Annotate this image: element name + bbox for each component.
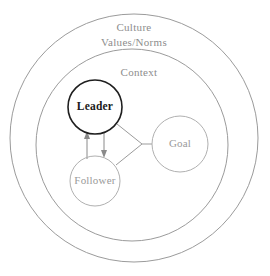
ring-culture-label-line-1: Culture <box>116 21 151 33</box>
node-goal-label: Goal <box>169 137 191 149</box>
node-follower-label: Follower <box>74 174 115 186</box>
diagram-canvas: Culture Values/Norms Context Leader Foll… <box>0 0 270 276</box>
leadership-diagram: Culture Values/Norms Context Leader Foll… <box>0 0 270 276</box>
ring-context-label: Context <box>121 66 158 78</box>
connector-follower-to-junction <box>116 144 142 165</box>
connector-leader-to-junction <box>117 124 142 144</box>
ring-context <box>36 49 228 241</box>
ring-culture-label-line-2: Values/Norms <box>101 36 167 48</box>
node-leader-label: Leader <box>77 100 113 112</box>
